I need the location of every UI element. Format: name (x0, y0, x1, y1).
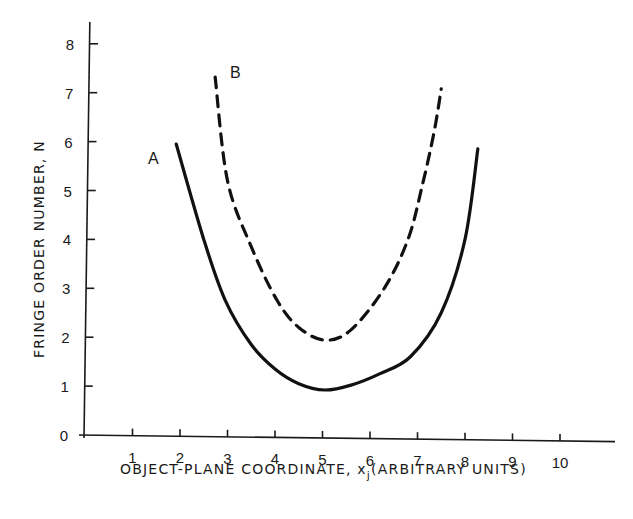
curve-a-solid (176, 144, 478, 390)
y-axis-label: FRINGE ORDER NUMBER, N (31, 140, 47, 358)
y-tick-label: 8 (66, 36, 74, 53)
x-axis-label-main: OBJECT-PLANE COORDINATE, x (120, 461, 367, 477)
axes: 12345678910 012345678 (60, 22, 615, 471)
y-ticks: 012345678 (60, 36, 98, 444)
y-tick-label: 6 (64, 134, 72, 151)
y-tick-label: 7 (65, 85, 73, 102)
x-axis (79, 435, 615, 442)
curve-b-label: B (230, 64, 241, 81)
x-tick-label: 10 (552, 454, 569, 471)
y-tick-label: 4 (63, 231, 71, 248)
curves (176, 77, 478, 390)
x-axis-label: OBJECT-PLANE COORDINATE, xj(ARBITRARY UN… (120, 461, 527, 482)
y-axis (84, 22, 90, 438)
curve-a-label: A (148, 150, 159, 167)
curve-b-dashed (215, 77, 441, 340)
y-tick-label: 2 (61, 329, 69, 346)
y-tick-label: 5 (64, 183, 72, 200)
y-tick-label: 3 (62, 280, 70, 297)
y-tick-label: 0 (60, 427, 68, 444)
y-tick-label: 1 (61, 378, 69, 395)
fringe-order-chart: 12345678910 012345678 A B OBJECT-PLANE C… (0, 0, 633, 519)
x-axis-label-suffix: (ARBITRARY UNITS) (371, 461, 527, 477)
